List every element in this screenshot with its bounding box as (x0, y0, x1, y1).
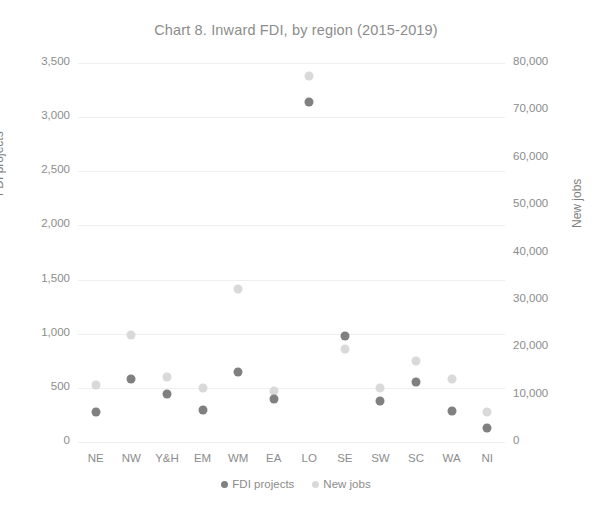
gridline (78, 63, 505, 64)
y-axis-left-tick: 3,000 (8, 109, 70, 121)
data-point (198, 384, 207, 393)
data-point (447, 375, 456, 384)
legend-item-new-jobs[interactable]: New jobs (312, 478, 370, 490)
y-axis-right-tick: 30,000 (513, 292, 583, 304)
gridline (78, 225, 505, 226)
y-axis-right-tick: 70,000 (513, 102, 583, 114)
chart-title: Chart 8. Inward FDI, by region (2015-201… (0, 22, 592, 38)
data-point (127, 374, 136, 383)
data-point (305, 97, 314, 106)
data-point (483, 407, 492, 416)
data-point (127, 330, 136, 339)
gridline (78, 334, 505, 335)
y-axis-left-tick: 1,000 (8, 326, 70, 338)
y-axis-right-tick: 10,000 (513, 387, 583, 399)
data-point (162, 372, 171, 381)
data-point (91, 407, 100, 416)
data-point (340, 332, 349, 341)
gridline (78, 171, 505, 172)
y-axis-left-title: FDI projects (0, 131, 6, 196)
data-point (447, 406, 456, 415)
y-axis-left-tick: 0 (8, 434, 70, 446)
x-axis-tick-ni: NI (464, 452, 510, 464)
y-axis-left-tick: 3,500 (8, 55, 70, 67)
data-point (91, 380, 100, 389)
data-point (376, 383, 385, 392)
data-point (234, 284, 243, 293)
legend-swatch-icon (312, 481, 319, 488)
data-point (340, 345, 349, 354)
data-point (376, 397, 385, 406)
gridline (78, 280, 505, 281)
gridline (78, 117, 505, 118)
gridline (78, 388, 505, 389)
y-axis-right-tick: 40,000 (513, 245, 583, 257)
y-axis-right-tick: 60,000 (513, 150, 583, 162)
data-point (412, 356, 421, 365)
y-axis-left-tick: 500 (8, 380, 70, 392)
data-point (198, 406, 207, 415)
data-point (412, 377, 421, 386)
y-axis-right-tick: 80,000 (513, 55, 583, 67)
chart-legend: FDI projectsNew jobs (0, 478, 592, 490)
y-axis-right-tick: 0 (513, 434, 583, 446)
y-axis-right-tick: 20,000 (513, 339, 583, 351)
legend-item-fdi-projects[interactable]: FDI projects (221, 478, 294, 490)
legend-swatch-icon (221, 481, 228, 488)
y-axis-left-tick: 2,500 (8, 163, 70, 175)
data-point (483, 423, 492, 432)
y-axis-left-tick: 2,000 (8, 217, 70, 229)
chart-container: Chart 8. Inward FDI, by region (2015-201… (0, 0, 592, 517)
y-axis-right-tick: 50,000 (513, 197, 583, 209)
data-point (305, 72, 314, 81)
y-axis-left-tick: 1,500 (8, 272, 70, 284)
plot-area (78, 63, 505, 442)
data-point (234, 368, 243, 377)
legend-label: FDI projects (232, 478, 294, 490)
gridline (78, 442, 505, 443)
data-point (269, 394, 278, 403)
legend-label: New jobs (323, 478, 370, 490)
data-point (162, 389, 171, 398)
